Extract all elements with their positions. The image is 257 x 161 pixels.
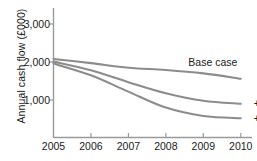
series-label-base-case: Base case <box>188 56 237 68</box>
y-axis-tick-label-text: 2,000 <box>8 56 50 68</box>
y-axis-tick-label: 1,000 <box>8 94 50 107</box>
y-axis-tick-label: 2,000 <box>8 56 50 69</box>
cash-flow-chart: Annual cash flow (£000) 1,0002,0003,000 … <box>0 0 257 161</box>
x-axis-tick-label: 2006 <box>71 140 111 152</box>
x-axis-tick-label: 2010 <box>221 140 257 152</box>
series-line-3 <box>54 64 241 119</box>
x-axis-tick-label: 2005 <box>34 140 74 152</box>
series-label-3: +3% <box>254 112 257 124</box>
x-axis-tick-label: 2008 <box>146 140 186 152</box>
x-axis-tick-label: 2009 <box>183 140 223 152</box>
y-axis-tick-label: 3,000 <box>8 18 50 31</box>
series-label-2: +2% <box>254 97 257 109</box>
x-axis-tick-label: 2007 <box>108 140 148 152</box>
y-axis-tick-label-text: 1,000 <box>8 94 50 106</box>
y-axis-tick-label-text: 3,000 <box>8 18 50 30</box>
chart-series-lines <box>54 59 241 118</box>
